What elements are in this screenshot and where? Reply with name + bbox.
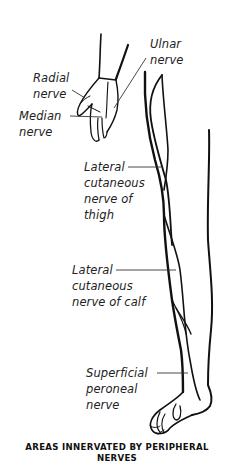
- label-line: thigh: [84, 207, 145, 223]
- label-lateral-cutaneous-thigh: Lateral cutaneous nerve of thigh: [84, 159, 145, 223]
- caption-line: AREAS INNERVATED BY PERIPHERAL: [0, 442, 234, 453]
- label-line: nerve of calf: [72, 294, 145, 310]
- label-line: nerve: [19, 124, 61, 140]
- caption-line: NERVES: [0, 453, 234, 464]
- label-line: nerve of: [84, 191, 145, 207]
- label-line: nerve: [86, 397, 148, 413]
- label-line: peroneal: [86, 381, 148, 397]
- label-line: Radial: [33, 70, 69, 86]
- hand-drawing: [77, 34, 128, 141]
- label-superficial-peroneal: Superficial peroneal nerve: [86, 365, 148, 413]
- label-radial-nerve: Radial nerve: [33, 70, 69, 102]
- label-line: Lateral: [84, 159, 145, 175]
- label-line: Superficial: [86, 365, 148, 381]
- label-ulnar-nerve: Ulnar nerve: [150, 36, 183, 68]
- leg-drawing: [145, 72, 212, 434]
- label-line: nerve: [33, 86, 69, 102]
- label-line: Median: [19, 108, 61, 124]
- label-lateral-cutaneous-calf: Lateral cutaneous nerve of calf: [72, 262, 145, 310]
- label-line: nerve: [150, 52, 183, 68]
- label-line: cutaneous: [84, 175, 145, 191]
- label-line: Lateral: [72, 262, 145, 278]
- figure-caption: AREAS INNERVATED BY PERIPHERAL NERVES: [0, 442, 234, 464]
- label-median-nerve: Median nerve: [19, 108, 61, 140]
- label-line: cutaneous: [72, 278, 145, 294]
- label-line: Ulnar: [150, 36, 183, 52]
